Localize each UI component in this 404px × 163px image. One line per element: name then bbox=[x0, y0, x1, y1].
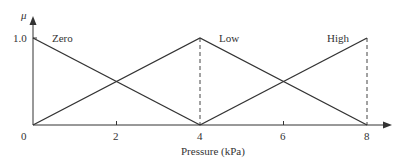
series-label-high: High bbox=[327, 33, 349, 44]
series-label-low: Low bbox=[219, 33, 239, 44]
y-tick-label-1: 1.0 bbox=[13, 33, 27, 44]
x-tick-label-0: 0 bbox=[21, 131, 27, 142]
x-tick-label-8: 8 bbox=[364, 131, 370, 142]
series-label-zero: Zero bbox=[52, 33, 73, 44]
y-axis-label: μ bbox=[21, 10, 27, 21]
y-axis-arrow-icon bbox=[30, 16, 37, 25]
x-tick-label-4: 4 bbox=[197, 131, 203, 142]
x-axis-arrow-icon bbox=[383, 122, 392, 129]
x-tick-label-2: 2 bbox=[113, 131, 119, 142]
x-axis-label: Pressure (kPa) bbox=[181, 146, 245, 157]
x-tick-label-6: 6 bbox=[280, 131, 286, 142]
